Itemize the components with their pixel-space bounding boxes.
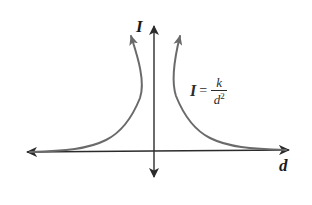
equation-numerator: k <box>214 76 224 90</box>
vertical-axis-label: I <box>136 18 143 35</box>
equation-denominator: d2 <box>212 91 227 106</box>
equation-annotation: I = k d2 <box>190 76 227 106</box>
equation-fraction: k d2 <box>211 76 227 106</box>
equation-equals-sign: = <box>199 83 207 99</box>
figure-canvas: I d I = k d2 <box>0 0 312 205</box>
equation-denominator-exponent: 2 <box>220 91 225 101</box>
curve-left-branch <box>30 36 142 152</box>
diagram-svg <box>0 0 312 205</box>
horizontal-axis-label: d <box>279 157 288 174</box>
equation-lhs: I <box>190 82 196 100</box>
